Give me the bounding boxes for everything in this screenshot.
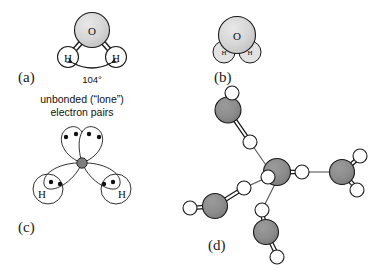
atom-hydrogen-bottom-lower-d xyxy=(270,250,284,264)
atom-hydrogen-bottom-upper-d xyxy=(255,203,269,217)
figure-canvas: O H H 104° (a) H H O (b) unbonded (“lone… xyxy=(0,0,381,270)
atom-oxygen-nucleus-c xyxy=(77,158,87,168)
atom-oxygen-right-d xyxy=(330,160,355,185)
panel-label-a: (a) xyxy=(18,69,35,86)
panel-c: unbonded (“lone”) electron pairs H H xyxy=(18,93,131,236)
atom-hydrogen-left-inner-d xyxy=(237,181,251,195)
lone-pair-caption-line1: unbonded (“lone”) xyxy=(40,93,123,105)
panel-label-b: (b) xyxy=(214,69,232,86)
atom-oxygen-left-d xyxy=(203,194,228,219)
bond-angle-arc xyxy=(73,63,111,68)
atom-hydrogen-right-upper-d xyxy=(353,149,367,163)
panel-label-c: (c) xyxy=(18,219,35,236)
panel-d: (d) xyxy=(183,86,367,264)
atom-oxygen-a-label: O xyxy=(88,25,96,37)
atom-hydrogen-top-inner-d xyxy=(243,135,257,149)
atom-hydrogen-center-right-d xyxy=(295,165,309,179)
atom-oxygen-top-d xyxy=(215,97,241,123)
atom-hydrogen-right-c-label: H xyxy=(118,188,126,200)
panel-a: O H H 104° (a) xyxy=(18,13,127,87)
panel-b: H H O (b) xyxy=(213,17,261,87)
atom-hydrogen-top-outer-d xyxy=(225,86,239,100)
atom-hydrogen-left-c-label: H xyxy=(38,188,46,200)
atom-hydrogen-left-a-label: H xyxy=(64,52,72,64)
atom-oxygen-bottom-d xyxy=(254,220,279,245)
atom-hydrogen-left-outer-d xyxy=(183,201,197,215)
bond-angle-label: 104° xyxy=(82,74,102,85)
atom-hydrogen-right-lower-d xyxy=(350,183,364,197)
panel-label-d: (d) xyxy=(208,237,226,254)
lone-pair-caption-line2: electron pairs xyxy=(50,106,113,118)
atom-oxygen-b-label: O xyxy=(233,30,241,42)
water-structure-figure: O H H 104° (a) H H O (b) unbonded (“lone… xyxy=(0,0,381,270)
atom-hydrogen-right-a-label: H xyxy=(112,52,120,64)
atom-hydrogen-center-left-d xyxy=(261,170,275,184)
